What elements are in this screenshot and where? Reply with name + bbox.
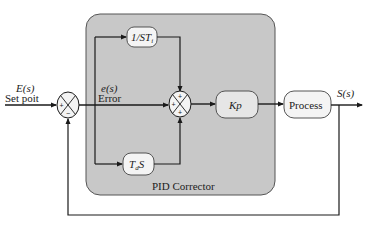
summing-junction-1: + − <box>57 92 79 118</box>
svg-text:Kp: Kp <box>228 99 242 111</box>
kp-block: Kp <box>216 91 258 118</box>
process-block: Process <box>284 91 331 118</box>
output-signal-label: S(s) <box>337 87 354 100</box>
error-label: Error <box>98 92 122 104</box>
derivative-block: TdS <box>123 153 154 175</box>
input-setpoint-label: Set poit <box>5 92 39 104</box>
pid-corrector-label: PID Corrector <box>152 180 215 192</box>
pid-block-diagram: PID Corrector E(s) Set poit + − e(s) Err… <box>0 0 379 226</box>
svg-text:+: + <box>60 102 64 109</box>
svg-text:1/STi: 1/STi <box>131 31 153 45</box>
svg-text:+: + <box>172 101 176 108</box>
svg-text:+: + <box>178 109 182 116</box>
svg-text:−: − <box>66 110 70 117</box>
svg-text:Process: Process <box>289 99 323 111</box>
svg-text:+: + <box>178 93 182 100</box>
integral-block: 1/STi <box>127 27 157 47</box>
summing-junction-2: + + + <box>169 91 191 117</box>
